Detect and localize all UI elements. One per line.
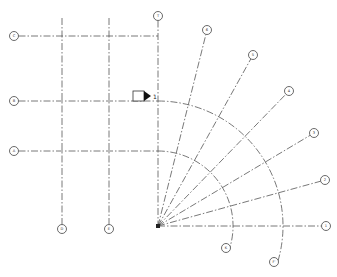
grid-bubble-k[interactable]: K <box>222 244 231 253</box>
grid-bubble-1[interactable]: 1 <box>322 222 331 231</box>
grid-line-6[interactable] <box>158 34 206 226</box>
grid-bubble-b[interactable]: B <box>10 97 19 106</box>
grid-bubble-6[interactable]: 6 <box>203 26 212 35</box>
grid-arc-fp[interactable] <box>158 101 283 263</box>
grid-bubble-label: F' <box>272 260 275 264</box>
grid-bubbles: CBADET654321KF' <box>10 12 331 267</box>
grid-bubble-2[interactable]: 2 <box>321 176 330 185</box>
grid-bubble-e[interactable]: E <box>105 225 114 234</box>
grid-bubble-3[interactable]: 3 <box>310 129 319 138</box>
grid-plan-canvas: CBADET654321KF' 1 <box>0 0 337 277</box>
section-marker-label: 1 <box>153 93 157 100</box>
grid-bubble-5[interactable]: 5 <box>249 51 258 60</box>
section-arrow-icon <box>144 91 151 101</box>
section-marker-box[interactable] <box>133 91 144 101</box>
origin-point-icon <box>156 224 160 228</box>
grid-bubble-d[interactable]: D <box>58 225 67 234</box>
grid-bubble-fp[interactable]: F' <box>270 258 279 267</box>
grid-line-3[interactable] <box>158 135 310 226</box>
grid-bubble-label: 1 <box>325 224 327 228</box>
grid-line-2[interactable] <box>158 181 321 226</box>
grid-line-5[interactable] <box>158 59 251 226</box>
grid-bubble-t[interactable]: T <box>154 12 163 21</box>
grid-bubble-a[interactable]: A <box>10 147 19 156</box>
grid-bubble-label: 5 <box>252 53 254 57</box>
grid-bubble-label: 3 <box>313 131 315 135</box>
grid-bubble-4[interactable]: 4 <box>285 87 294 96</box>
grid-arc-k[interactable] <box>158 151 233 249</box>
grid-bubble-label: 2 <box>324 178 326 182</box>
grid-bubble-label: D <box>61 227 64 231</box>
section-marker[interactable]: 1 <box>133 91 157 101</box>
grid-line-4[interactable] <box>158 94 286 226</box>
grid-bubble-c[interactable]: C <box>10 32 19 41</box>
